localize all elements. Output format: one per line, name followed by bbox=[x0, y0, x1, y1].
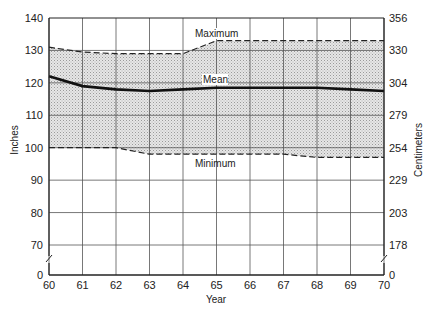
y-tick-right: 279 bbox=[389, 109, 407, 121]
x-tick: 67 bbox=[277, 279, 289, 291]
y-tick-left: 120 bbox=[25, 77, 43, 89]
x-tick: 61 bbox=[76, 279, 88, 291]
mean-annotation: Mean bbox=[203, 74, 228, 85]
x-tick: 63 bbox=[143, 279, 155, 291]
y-tick-right: 203 bbox=[389, 207, 407, 219]
y-axis-title-left: Inches bbox=[9, 125, 20, 154]
y-tick-right: 356 bbox=[389, 12, 407, 24]
y-tick-right: 254 bbox=[389, 142, 407, 154]
y-tick-left: 130 bbox=[25, 44, 43, 56]
chart-canvas: 0708090100110120130140017820322925427930… bbox=[0, 0, 434, 319]
y-tick-left: 140 bbox=[25, 12, 43, 24]
x-tick: 62 bbox=[110, 279, 122, 291]
y-tick-left: 70 bbox=[31, 239, 43, 251]
y-tick-left: 100 bbox=[25, 142, 43, 154]
y-tick-left: 110 bbox=[25, 109, 43, 121]
y-tick-right: 178 bbox=[389, 239, 407, 251]
y-tick-right: 304 bbox=[389, 77, 407, 89]
x-tick: 70 bbox=[378, 279, 390, 291]
y-tick-left: 80 bbox=[31, 207, 43, 219]
x-tick: 60 bbox=[43, 279, 55, 291]
y-tick-left: 90 bbox=[31, 174, 43, 186]
x-tick: 66 bbox=[244, 279, 256, 291]
x-axis-title: Year bbox=[206, 294, 227, 305]
y-tick-right: 330 bbox=[389, 44, 407, 56]
minimum-annotation: Minimum bbox=[195, 158, 236, 169]
x-tick: 64 bbox=[177, 279, 189, 291]
x-tick: 69 bbox=[344, 279, 356, 291]
x-tick: 68 bbox=[311, 279, 323, 291]
y-axis-title-right: Centimeters bbox=[413, 123, 424, 177]
y-tick-right: 229 bbox=[389, 174, 407, 186]
maximum-annotation: Maximum bbox=[195, 28, 238, 39]
x-tick: 65 bbox=[210, 279, 222, 291]
